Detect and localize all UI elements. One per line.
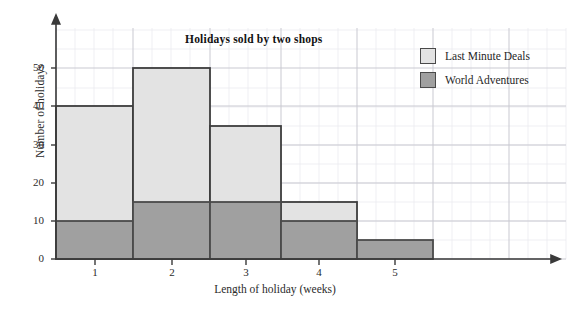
x-tick-label-5: 5 xyxy=(380,266,410,278)
y-axis-title: Number of holidays xyxy=(34,31,46,191)
x-axis-title: Length of holiday (weeks) xyxy=(150,283,400,295)
legend-label-last-minute-deals: Last Minute Deals xyxy=(445,50,530,62)
bar-dark-week-2 xyxy=(133,202,210,259)
y-tick-label-10: 10 xyxy=(18,214,44,226)
y-tick-label-0: 0 xyxy=(18,252,44,264)
x-tick-label-2: 2 xyxy=(157,266,187,278)
x-tick-label-4: 4 xyxy=(304,266,334,278)
y-tick-label-30: 30 xyxy=(18,138,44,150)
legend-item-last-minute-deals: Last Minute Deals xyxy=(420,48,530,64)
legend-swatch-light-icon xyxy=(420,48,436,64)
y-tick-label-50: 50 xyxy=(18,61,44,73)
bar-dark-week-5 xyxy=(357,240,433,259)
x-tick-label-3: 3 xyxy=(231,266,261,278)
bar-dark-week-4 xyxy=(281,221,357,259)
x-tick-label-1: 1 xyxy=(80,266,110,278)
chart-title: Holidays sold by two shops xyxy=(185,33,323,45)
legend-label-world-adventures: World Adventures xyxy=(445,74,529,86)
chart-canvas xyxy=(0,0,582,309)
legend-swatch-dark-icon xyxy=(420,72,436,88)
y-axis-arrow xyxy=(52,15,60,24)
y-tick-label-40: 40 xyxy=(18,99,44,111)
bar-dark-week-3 xyxy=(210,202,281,259)
chart-container: Holidays sold by two shops Number of hol… xyxy=(0,0,582,309)
legend-item-world-adventures: World Adventures xyxy=(420,72,529,88)
bar-dark-week-1 xyxy=(56,221,133,259)
y-tick-label-20: 20 xyxy=(18,176,44,188)
x-axis-arrow xyxy=(551,255,560,263)
